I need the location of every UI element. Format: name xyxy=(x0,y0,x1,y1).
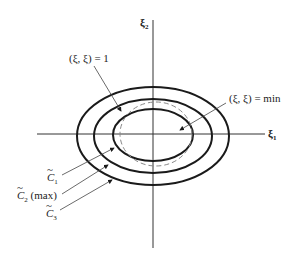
unit-circle-label: (ξ, ξ) = 1 xyxy=(69,53,109,64)
leader-unit xyxy=(94,66,121,111)
leader-c2 xyxy=(62,165,108,194)
leader-c1 xyxy=(62,148,114,175)
x-axis-label: ξ1 xyxy=(268,128,276,139)
leader-min xyxy=(180,103,226,130)
leader-c3 xyxy=(60,180,112,210)
curve-c1-label: C1 xyxy=(47,172,58,183)
y-axis-label: ξ2 xyxy=(140,17,148,28)
diagram-canvas xyxy=(0,0,294,262)
min-label: (ξ, ξ) = min xyxy=(229,93,280,104)
curve-c3-label: C3 xyxy=(46,208,57,219)
